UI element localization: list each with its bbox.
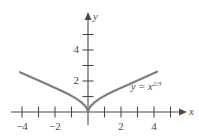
graph-canvas (0, 0, 199, 139)
x-axis-label: x (189, 106, 194, 117)
x-tick-label--2: −2 (46, 121, 64, 132)
y-tick-label-4: 4 (65, 44, 79, 55)
equation-lhs: y = x (131, 81, 153, 92)
y-axis-arrowhead (85, 12, 92, 20)
x-tick-label-2: 2 (114, 121, 128, 132)
x-axis (11, 107, 187, 118)
equation-exponent: 2/3 (153, 80, 162, 88)
function-graph-figure: −4 −2 2 4 2 4 y x y = x2/3 (0, 0, 199, 139)
y-axis-label: y (93, 11, 98, 22)
y-tick-label-2: 2 (65, 75, 79, 86)
x-axis-arrowhead (179, 109, 187, 116)
y-axis (83, 12, 94, 125)
curve-equation-label: y = x2/3 (131, 82, 162, 93)
x-tick-label--4: −4 (13, 121, 31, 132)
x-tick-label-4: 4 (147, 121, 161, 132)
